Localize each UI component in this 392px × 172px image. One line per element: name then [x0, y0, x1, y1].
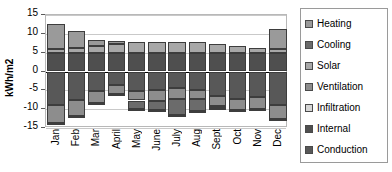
bar-segment-infiltration[interactable] — [189, 111, 206, 113]
bar-segment-infiltration[interactable] — [148, 110, 165, 112]
bar-segment-ventilation[interactable] — [128, 91, 145, 100]
legend-item-solar[interactable]: Solar — [305, 55, 384, 76]
bar-segment-ventilation[interactable] — [68, 100, 85, 116]
bar-segment-conduction[interactable] — [209, 72, 226, 96]
bar-segment-internal[interactable] — [229, 53, 246, 71]
x-axis-tick-labels: JanFebMarAprilMayJuneJulyAugSeptOctNovDe… — [45, 129, 287, 171]
legend-label: Conduction — [317, 144, 368, 155]
legend-label: Internal — [317, 123, 350, 134]
legend-item-conduction[interactable]: Conduction — [305, 139, 384, 160]
plot-frame — [45, 14, 287, 127]
y-tick-label: -10 — [12, 101, 38, 112]
bar-segment-infiltration[interactable] — [209, 108, 226, 110]
bar-segment-solar[interactable] — [168, 42, 185, 53]
bar-segment-internal[interactable] — [68, 53, 85, 71]
bar-segment-heating[interactable] — [88, 40, 105, 46]
bar-segment-conduction[interactable] — [108, 72, 125, 86]
bar-segment-solar[interactable] — [229, 46, 246, 54]
bar-group[interactable] — [47, 15, 64, 126]
bar-segment-solar[interactable] — [68, 48, 85, 53]
bar-segment-solar[interactable] — [209, 44, 226, 53]
bar-segment-internal[interactable] — [148, 53, 165, 71]
legend-item-internal[interactable]: Internal — [305, 118, 384, 139]
legend-swatch-icon — [305, 62, 313, 70]
x-tick-label: Sept — [211, 129, 222, 150]
bar-segment-conduction[interactable] — [249, 72, 266, 97]
bar-segment-solar[interactable] — [148, 42, 165, 53]
bar-segment-infiltration[interactable] — [249, 109, 266, 111]
bar-segment-heating[interactable] — [108, 41, 125, 44]
bar-segment-ventilation[interactable] — [189, 90, 206, 100]
bar-segment-internal[interactable] — [249, 53, 266, 71]
bar-segment-ventilation[interactable] — [209, 96, 226, 106]
bar-segment-conduction[interactable] — [229, 72, 246, 100]
bar-segment-infiltration[interactable] — [88, 103, 105, 105]
bar-segment-internal[interactable] — [108, 53, 125, 71]
legend-item-infiltration[interactable]: Infiltration — [305, 97, 384, 118]
bar-segment-infiltration[interactable] — [229, 110, 246, 112]
bar-group[interactable] — [249, 15, 266, 126]
bar-segment-solar[interactable] — [88, 46, 105, 53]
bar-group[interactable] — [269, 15, 286, 126]
bar-group[interactable] — [168, 15, 185, 126]
bar-segment-cooling[interactable] — [148, 101, 165, 110]
bar-segment-ventilation[interactable] — [88, 91, 105, 103]
bar-segment-cooling[interactable] — [168, 99, 185, 116]
bar-segment-cooling[interactable] — [189, 99, 206, 111]
bar-group[interactable] — [148, 15, 165, 126]
bar-segment-ventilation[interactable] — [168, 88, 185, 99]
bar-segment-conduction[interactable] — [88, 72, 105, 92]
bar-segment-conduction[interactable] — [148, 72, 165, 91]
bar-segment-solar[interactable] — [189, 42, 206, 53]
bar-segment-infiltration[interactable] — [128, 109, 145, 111]
bar-segment-conduction[interactable] — [189, 72, 206, 90]
bar-segment-heating[interactable] — [47, 24, 64, 49]
bar-segment-solar[interactable] — [249, 48, 266, 53]
bar-segment-infiltration[interactable] — [47, 123, 64, 125]
bar-segment-internal[interactable] — [269, 53, 286, 71]
energy-balance-chart: kWh/m2 151050-5-10-15 JanFebMarAprilMayJ… — [0, 0, 392, 172]
bar-group[interactable] — [189, 15, 206, 126]
bar-segment-solar[interactable] — [108, 44, 125, 53]
bar-segment-solar[interactable] — [128, 42, 145, 53]
legend-label: Solar — [317, 60, 340, 71]
bar-group[interactable] — [209, 15, 226, 126]
bar-segment-internal[interactable] — [88, 53, 105, 71]
bar-group[interactable] — [128, 15, 145, 126]
bar-segment-heating[interactable] — [68, 31, 85, 48]
bar-segment-heating[interactable] — [269, 29, 286, 49]
bar-segment-ventilation[interactable] — [269, 105, 286, 119]
bar-segment-internal[interactable] — [189, 53, 206, 71]
bar-segment-internal[interactable] — [209, 53, 226, 71]
bar-segment-conduction[interactable] — [68, 72, 85, 100]
bar-segment-ventilation[interactable] — [249, 97, 266, 109]
legend-swatch-icon — [305, 146, 313, 154]
bar-segment-conduction[interactable] — [47, 72, 64, 106]
legend-item-cooling[interactable]: Cooling — [305, 34, 384, 55]
bar-segment-infiltration[interactable] — [168, 115, 185, 117]
bar-group[interactable] — [68, 15, 85, 126]
bar-segment-infiltration[interactable] — [269, 119, 286, 121]
bar-segment-conduction[interactable] — [269, 72, 286, 106]
legend-swatch-icon — [305, 83, 313, 91]
bar-segment-conduction[interactable] — [128, 72, 145, 92]
bar-segment-infiltration[interactable] — [68, 116, 85, 118]
legend-item-heating[interactable]: Heating — [305, 13, 384, 34]
bar-segment-internal[interactable] — [128, 53, 145, 71]
bar-group[interactable] — [88, 15, 105, 126]
bar-segment-solar[interactable] — [47, 49, 64, 53]
bar-segment-ventilation[interactable] — [108, 85, 125, 94]
bar-segment-infiltration[interactable] — [108, 94, 125, 96]
legend-item-ventilation[interactable]: Ventilation — [305, 76, 384, 97]
plot-area — [45, 14, 287, 127]
bar-segment-ventilation[interactable] — [229, 99, 246, 110]
bar-group[interactable] — [229, 15, 246, 126]
bar-segment-conduction[interactable] — [168, 72, 185, 89]
bar-segment-internal[interactable] — [168, 53, 185, 71]
bar-segment-solar[interactable] — [269, 49, 286, 53]
bar-segment-cooling[interactable] — [128, 101, 145, 109]
bar-segment-ventilation[interactable] — [148, 90, 165, 101]
bar-group[interactable] — [108, 15, 125, 126]
bar-segment-internal[interactable] — [47, 53, 64, 71]
bar-segment-ventilation[interactable] — [47, 105, 64, 123]
